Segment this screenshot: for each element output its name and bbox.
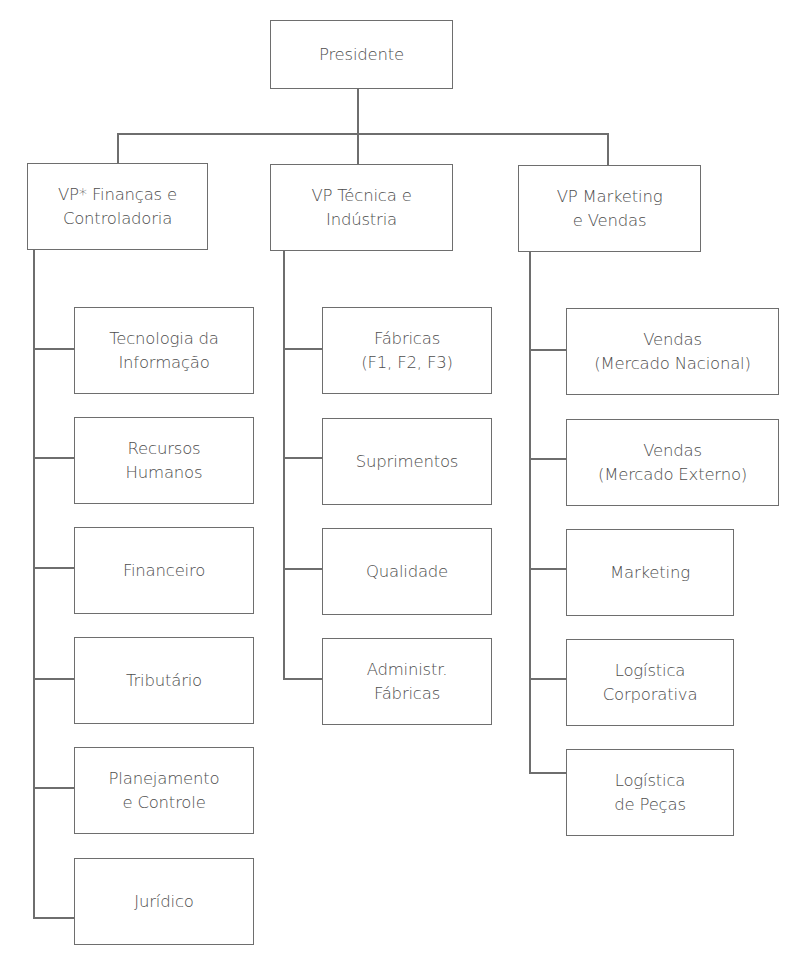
connector-col3-branch (529, 349, 567, 351)
connector-vp1-up (117, 133, 119, 164)
node-recursos-humanos: Recursos Humanos (74, 417, 254, 504)
connector-vp2-up (357, 133, 359, 165)
node-logistica-corporativa: Logística Corporativa (566, 639, 734, 726)
connector-col1-branch (33, 457, 75, 459)
connector-col3-branch (529, 678, 567, 680)
node-juridico: Jurídico (74, 858, 254, 945)
node-fabricas: Fábricas (F1, F2, F3) (322, 307, 492, 394)
node-vendas-mercado-nacional: Vendas (Mercado Nacional) (566, 308, 779, 395)
node-vp-tecnica-industria: VP Técnica e Indústria (270, 164, 453, 251)
node-marketing: Marketing (566, 529, 734, 616)
connector-vp-bus (117, 133, 609, 135)
node-financeiro: Financeiro (74, 527, 254, 614)
node-vendas-mercado-externo: Vendas (Mercado Externo) (566, 419, 779, 506)
connector-root-down (357, 88, 359, 134)
connector-col1-branch (33, 917, 75, 919)
node-logistica-pecas: Logística de Peças (566, 749, 734, 836)
connector-col1-branch (33, 787, 75, 789)
connector-col2-branch (283, 678, 323, 680)
connector-col3-branch (529, 772, 567, 774)
node-vp-financas-controladoria: VP* Finanças e Controladoria (27, 163, 208, 250)
connector-col2-branch (283, 457, 323, 459)
node-planejamento-controle: Planejamento e Controle (74, 747, 254, 834)
connector-col2-branch (283, 348, 323, 350)
node-suprimentos: Suprimentos (322, 418, 492, 505)
connector-col1-branch (33, 678, 75, 680)
node-tributario: Tributário (74, 637, 254, 724)
connector-col2-branch (283, 568, 323, 570)
node-qualidade: Qualidade (322, 528, 492, 615)
connector-col2-trunk (283, 250, 285, 680)
node-tecnologia-informacao: Tecnologia da Informação (74, 307, 254, 394)
connector-col3-branch (529, 458, 567, 460)
connector-vp3-up (607, 133, 609, 166)
node-presidente: Presidente (270, 20, 453, 89)
connector-col3-trunk (529, 251, 531, 773)
connector-col1-branch (33, 348, 75, 350)
node-administr-fabricas: Administr. Fábricas (322, 638, 492, 725)
node-vp-marketing-vendas: VP Marketing e Vendas (518, 165, 701, 252)
connector-col1-branch (33, 567, 75, 569)
connector-col3-branch (529, 568, 567, 570)
